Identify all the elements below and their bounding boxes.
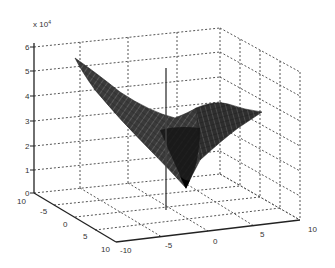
y-tick-label: 5 [83, 232, 88, 241]
x-tick-label: -5 [165, 241, 173, 250]
x-tick-label: 10 [308, 225, 317, 234]
x-tick-label: 0 [213, 237, 218, 246]
z-tick-label: 3 [25, 117, 30, 126]
y-tick-label: -5 [40, 207, 48, 216]
x-tick-label: 5 [260, 230, 265, 239]
y-tick-label: 10 [101, 245, 110, 254]
x-tick-label: -10 [120, 246, 132, 255]
z-tick-label: 2 [25, 142, 30, 151]
z-tick-label: 1 [25, 166, 30, 175]
y-tick-label: 10 [17, 197, 26, 206]
y-tick-label: 0 [63, 220, 68, 229]
surface-plot: 0 1 2 3 4 5 6 x 104 10 -5 0 5 10 -10 -5 … [0, 0, 335, 268]
y-axis-ticks: 10 -5 0 5 10 [17, 197, 110, 254]
z-tick-label: 6 [25, 43, 30, 52]
surface-mesh [75, 58, 262, 189]
z-tick-label: 4 [25, 92, 30, 101]
z-multiplier-label: x 104 [33, 19, 51, 29]
z-tick-label: 5 [25, 67, 30, 76]
